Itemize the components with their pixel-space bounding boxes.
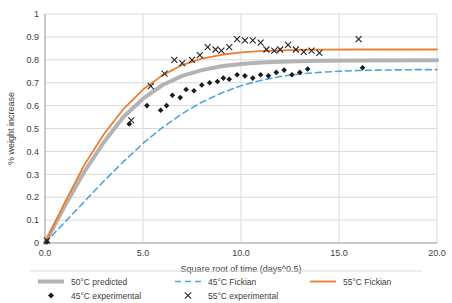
x-tick-label: 5.0 bbox=[137, 248, 150, 258]
legend-label: 50°C predicted bbox=[71, 277, 128, 287]
x-tick-label: 10.0 bbox=[232, 248, 250, 258]
y-tick-label: 0.5 bbox=[26, 124, 39, 134]
legend-label: 55°C experimental bbox=[208, 291, 278, 301]
x-tick-label: 0.0 bbox=[39, 248, 52, 258]
legend-label: 45°C experimental bbox=[71, 291, 141, 301]
y-tick-label: 0.1 bbox=[26, 215, 39, 225]
x-tick-label: 15.0 bbox=[330, 248, 348, 258]
legend-label: 55°C Fickian bbox=[343, 277, 392, 287]
y-tick-label: 0.8 bbox=[26, 55, 39, 65]
y-tick-label: 0.2 bbox=[26, 192, 39, 202]
x-tick-label: 20.0 bbox=[428, 248, 446, 258]
chart-container: 00.10.20.30.40.50.60.70.80.910.05.010.01… bbox=[0, 0, 452, 303]
legend-swatch-diamond bbox=[48, 293, 54, 299]
legend-item[interactable]: 55°C Fickian bbox=[310, 277, 392, 287]
x-axis-title: Square root of time (days^0.5) bbox=[181, 264, 302, 274]
y-tick-label: 0.9 bbox=[26, 32, 39, 42]
y-tick-label: 0.4 bbox=[26, 147, 39, 157]
y-tick-label: 0 bbox=[34, 238, 39, 248]
y-tick-label: 1 bbox=[34, 9, 39, 19]
legend-item[interactable]: 45°C Fickian bbox=[175, 277, 257, 287]
legend-label: 45°C Fickian bbox=[208, 277, 257, 287]
y-tick-label: 0.6 bbox=[26, 101, 39, 111]
legend-item[interactable]: 50°C predicted bbox=[38, 277, 128, 287]
y-tick-label: 0.7 bbox=[26, 78, 39, 88]
legend-item[interactable]: 55°C experimental bbox=[185, 291, 278, 301]
y-axis-title: % weight increase bbox=[6, 92, 16, 165]
chart-canvas: 00.10.20.30.40.50.60.70.80.910.05.010.01… bbox=[0, 0, 452, 303]
y-tick-label: 0.3 bbox=[26, 170, 39, 180]
legend-item[interactable]: 45°C experimental bbox=[48, 291, 141, 301]
